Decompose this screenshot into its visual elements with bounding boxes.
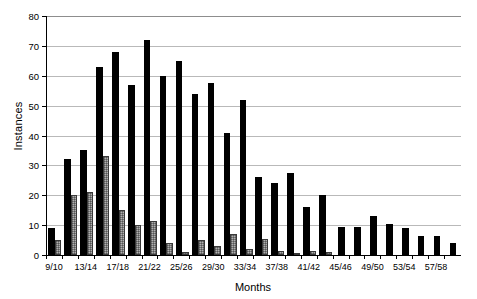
x-axis-tick-label: 13/14 [78, 262, 94, 276]
bar-group [334, 16, 350, 255]
x-axis-tick-mark [380, 255, 381, 259]
x-axis-title: Months [46, 281, 460, 293]
bar [166, 243, 173, 255]
x-axis-tick-label: 21/22 [142, 262, 158, 276]
bar-group [381, 16, 397, 255]
bar [160, 76, 167, 255]
bar [287, 173, 294, 255]
bar-group [350, 16, 366, 255]
bar-group [397, 16, 413, 255]
bar-group [445, 16, 461, 255]
bar-group [47, 16, 63, 255]
x-axis-tick-labels: 9/1013/1417/1821/2225/2629/3033/3437/384… [46, 262, 460, 276]
y-axis-tick-label: 70 [28, 40, 39, 51]
bar [192, 94, 199, 255]
x-axis-tick-mark [285, 255, 286, 259]
x-axis-tick-mark [333, 255, 334, 259]
x-axis-tick-mark [301, 255, 302, 259]
bar [262, 239, 269, 255]
y-axis-tick-label: 30 [28, 160, 39, 171]
x-axis-tick-mark [110, 255, 111, 259]
x-axis-tick-mark [428, 255, 429, 259]
x-axis-tick-mark [173, 255, 174, 259]
x-axis-tick-mark [364, 255, 365, 259]
y-axis-tick-label: 40 [28, 130, 39, 141]
bar [434, 236, 441, 255]
bar-group [413, 16, 429, 255]
y-axis-tick-label: 10 [28, 220, 39, 231]
bar [119, 210, 126, 255]
x-axis-tick-label: 37/38 [269, 262, 285, 276]
x-axis-tick-mark [142, 255, 143, 259]
x-axis-tick-label: 29/30 [205, 262, 221, 276]
bar [418, 236, 425, 255]
x-axis-tick-mark [205, 255, 206, 259]
x-axis-tick-mark [269, 255, 270, 259]
x-axis-tick-mark [237, 255, 238, 259]
bar [338, 227, 345, 255]
bar-group [254, 16, 270, 255]
x-axis-tick-mark [412, 255, 413, 259]
bar [71, 195, 78, 255]
bar-group [111, 16, 127, 255]
x-axis-tick-mark [317, 255, 318, 259]
bar-group [302, 16, 318, 255]
bar [103, 156, 110, 255]
x-axis-tick-mark [396, 255, 397, 259]
x-axis-tick-label: 49/50 [364, 262, 380, 276]
y-axis-tick-label: 20 [28, 190, 39, 201]
bar-group [365, 16, 381, 255]
y-axis-tick-label: 60 [28, 70, 39, 81]
bar-group [158, 16, 174, 255]
bar [386, 224, 393, 255]
x-axis-tick-label: 45/46 [333, 262, 349, 276]
bar-group [63, 16, 79, 255]
bar [402, 228, 409, 255]
y-axis-tick-label: 50 [28, 100, 39, 111]
y-axis-tick-label: 0 [34, 250, 39, 261]
x-axis-tick-mark [157, 255, 158, 259]
bar-chart: Instances 01020304050607080 9/1013/1417/… [0, 0, 477, 299]
x-axis-tick-label: 41/42 [301, 262, 317, 276]
x-axis-tick-mark [94, 255, 95, 259]
bar-group [286, 16, 302, 255]
bar-group [429, 16, 445, 255]
bar [240, 100, 247, 255]
x-axis-tick-label: 9/10 [46, 262, 62, 276]
x-axis-tick-label: 17/18 [110, 262, 126, 276]
bar-group [270, 16, 286, 255]
x-axis-tick-mark [349, 255, 350, 259]
bar [354, 227, 361, 255]
x-axis-tick-mark [221, 255, 222, 259]
bar-group [174, 16, 190, 255]
x-axis-tick-label: 53/54 [396, 262, 412, 276]
x-axis-tick-label: 25/26 [173, 262, 189, 276]
y-axis-tick-label: 80 [28, 11, 39, 22]
bar [303, 207, 310, 255]
x-axis-tick-mark [253, 255, 254, 259]
bar [230, 234, 237, 255]
bar [450, 243, 457, 255]
bar-group [190, 16, 206, 255]
x-axis-tick-label: 57/58 [428, 262, 444, 276]
x-axis-tick-mark [126, 255, 127, 259]
plot-area [46, 16, 461, 256]
x-axis-tick-label [444, 262, 460, 276]
bar-group [79, 16, 95, 255]
bar [214, 246, 221, 255]
x-axis-tick-mark [189, 255, 190, 259]
bar [271, 183, 278, 255]
bar [198, 240, 205, 255]
bar [55, 240, 62, 255]
bar-group [222, 16, 238, 255]
bar-group [127, 16, 143, 255]
x-axis-tick-label: 33/34 [237, 262, 253, 276]
bar-group [206, 16, 222, 255]
bar-series-group [47, 16, 461, 255]
x-axis-tick-mark [78, 255, 79, 259]
bar [87, 192, 94, 255]
bar [135, 225, 142, 255]
x-axis-tick-mark [62, 255, 63, 259]
bar [208, 83, 215, 255]
bar-group [143, 16, 159, 255]
